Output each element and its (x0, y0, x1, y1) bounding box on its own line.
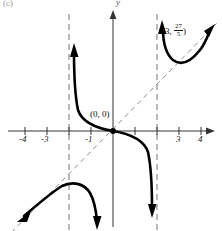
coordinate-plane (0, 0, 222, 231)
arrowhead-middle-down (148, 204, 157, 218)
arrowhead-lower-left-down (93, 216, 102, 230)
slant-asymptote-line (5, 23, 217, 231)
origin-point-marker (110, 128, 116, 134)
curve-branch-lower-left (24, 183, 97, 221)
local-minimum-fraction: 275 (174, 23, 183, 39)
x-tick-label-3: 3 (176, 135, 181, 144)
x-axis-arrow (206, 128, 215, 135)
y-axis-label: y (116, 0, 120, 7)
x-tick-label--4: -4 (19, 135, 27, 144)
graph-figure: (c) y -4 -3 -1 3 4 (0, 0) (3, 275) (0, 0, 222, 231)
local-minimum-point-label: (3, 275) (162, 23, 186, 39)
x-tick-label-4: 4 (198, 135, 203, 144)
arrowhead-middle-up (70, 43, 79, 57)
arrowhead-upper-right-up (204, 24, 215, 37)
local-minimum-label-prefix: (3, (162, 26, 174, 36)
x-tick-label--3: -3 (41, 135, 49, 144)
origin-point-label: (0, 0) (90, 110, 110, 119)
y-axis-arrow (110, 10, 117, 19)
x-tick-label--1: -1 (85, 135, 93, 144)
fraction-denominator: 5 (174, 31, 183, 38)
panel-label: (c) (3, 0, 13, 8)
local-minimum-label-suffix: ) (183, 26, 186, 36)
